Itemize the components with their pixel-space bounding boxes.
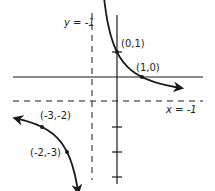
point-marker <box>65 150 69 154</box>
point-label: (1,0) <box>136 62 160 73</box>
point-marker <box>115 50 119 54</box>
graph-canvas: (0,1)(1,0)(-3,-2)(-2,-3) y = -1 x = -1 <box>0 0 215 191</box>
point-marker <box>40 125 44 129</box>
point-marker <box>140 75 144 79</box>
vertical-asymptote-label: y = -1 <box>63 17 95 28</box>
horizontal-asymptote-label: x = -1 <box>165 104 197 115</box>
point-label: (0,1) <box>121 38 145 49</box>
point-label: (-3,-2) <box>40 110 71 121</box>
labeled-points: (0,1)(1,0)(-3,-2)(-2,-3) <box>30 38 160 158</box>
point-label: (-2,-3) <box>30 147 61 158</box>
